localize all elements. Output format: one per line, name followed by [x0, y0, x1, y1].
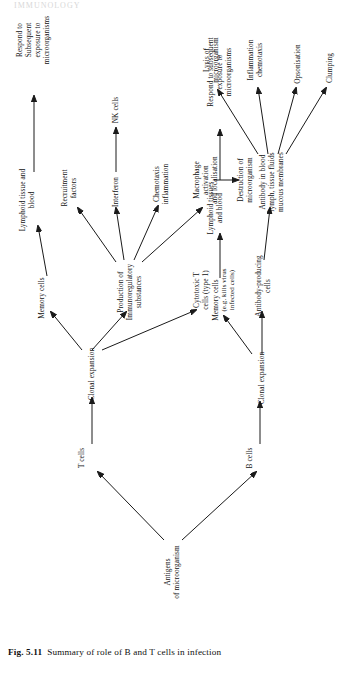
node-t-respond-subsequent: Respond to Subsequent exposure to microo… — [16, 16, 52, 64]
node-interferon: Interferon — [112, 177, 121, 207]
diagram-connectors — [6, 0, 336, 612]
figure-caption-label: Fig. 5.11 — [8, 647, 42, 657]
node-lysis-microorganism: Lysis of microorganism — [203, 37, 221, 82]
node-clumping: Clumping — [326, 53, 335, 83]
node-t-cells: T cells — [78, 448, 87, 468]
node-opsonisation: Opsonisation — [294, 44, 303, 84]
node-recruitment-factors: Recruitment factors — [61, 169, 79, 206]
node-antibody-in-fluids: Antibody in blood lymph, tissue fluids m… — [259, 152, 286, 212]
node-t-lymphoid-tissue-blood: Lymphoid tissue and blood — [19, 169, 37, 232]
node-nk-cells: NK cells — [112, 97, 121, 124]
node-b-lymphoid-tissues-blood: Lymphoid tissues and blood — [207, 182, 225, 235]
node-b-cells: B cells — [246, 448, 255, 469]
flow-diagram: Antigens of microorganism T cells Clonal… — [6, 0, 336, 612]
node-production-immunoregulatory: Production of Immunoregulatory substance… — [117, 264, 144, 320]
node-t-clonal-expansion: Clonal expansion — [88, 348, 97, 400]
node-t-memory-cells: Memory cells — [38, 277, 47, 319]
node-b-memory-cells: Memory cells — [212, 279, 221, 321]
node-cytotoxic-t-cells: Cytotoxic T cells (type 1) — [193, 270, 211, 310]
node-antigens: Antigens of microorganism — [164, 545, 182, 599]
node-inflammation-chemotaxis: Inflammation chemotaxis — [247, 40, 265, 81]
node-antibody-producing-cells: Antibody-producing cells — [255, 255, 273, 316]
node-b-clonal-expansion: Clonal expansion — [258, 352, 267, 404]
figure-caption-text: Summary of role of B and T cells in infe… — [47, 647, 221, 657]
node-cytotoxic-note: (e.g. kills virus infected cells) — [220, 268, 237, 311]
node-destruction-microorganism: Destruction of microorganism — [237, 157, 255, 202]
figure-caption: Fig. 5.11 Summary of role of B and T cel… — [8, 647, 221, 657]
node-chemotaxis-inflammation: Chemotaxis inflammation — [153, 164, 171, 205]
